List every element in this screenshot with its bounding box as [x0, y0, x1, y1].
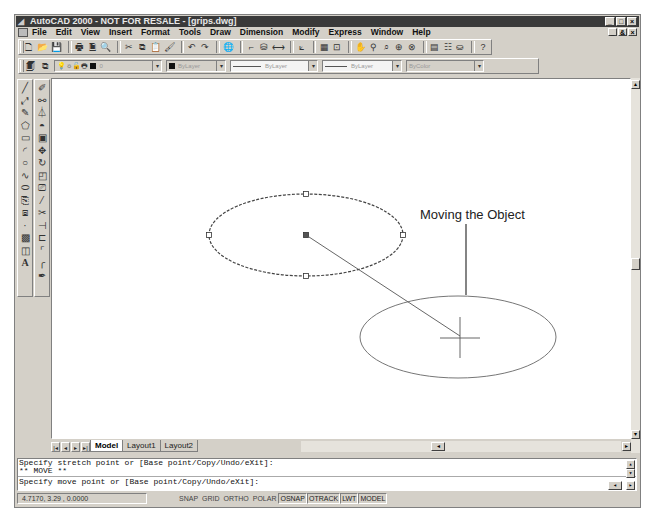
scroll-up-button[interactable]: ▴ [631, 80, 640, 89]
tab-layout1[interactable]: Layout1 [122, 440, 160, 452]
trim-icon[interactable]: ✂ [35, 207, 49, 220]
model-toggle[interactable]: MODEL [358, 493, 387, 504]
toolbar-grip[interactable] [20, 60, 24, 72]
document-icon[interactable] [18, 28, 28, 37]
pan-icon[interactable]: ✋ [355, 41, 366, 53]
otrack-toggle[interactable]: OTRACK [307, 493, 340, 504]
line-icon[interactable]: ╱ [18, 82, 32, 95]
snap-from-icon[interactable]: ⌐ [246, 41, 256, 53]
menu-express[interactable]: Express [329, 27, 362, 38]
close-button[interactable]: × [627, 17, 637, 26]
command-scroll-down[interactable]: ▾ [626, 469, 635, 478]
point-icon[interactable]: · [18, 220, 32, 233]
tab-model[interactable]: Model [90, 440, 123, 452]
color-dropdown[interactable]: ByLayer ▾ [166, 60, 226, 72]
menu-modify[interactable]: Modify [292, 27, 319, 38]
break-icon[interactable]: ⊏ [35, 232, 49, 245]
make-block-icon[interactable]: ⧈ [18, 207, 32, 220]
extend-icon[interactable]: ⊣ [35, 220, 49, 233]
region-icon[interactable]: ◫ [18, 245, 32, 258]
plotstyle-dropdown[interactable]: ByColor ▾ [406, 60, 484, 72]
lineweight-dropdown[interactable]: ByLayer ▾ [322, 60, 402, 72]
menu-draw[interactable]: Draw [210, 27, 231, 38]
properties-icon[interactable]: ▤ [430, 41, 440, 53]
copy-object-icon[interactable]: ⚯ [35, 95, 49, 108]
polar-toggle[interactable]: POLAR [251, 493, 279, 504]
help-icon[interactable]: ? [478, 41, 488, 53]
vertical-scroll-thumb[interactable] [631, 258, 640, 270]
scale-icon[interactable]: ◰ [35, 170, 49, 183]
minimize-button[interactable]: _ [605, 17, 615, 26]
menu-window[interactable]: Window [371, 27, 404, 38]
layer-dropdown[interactable]: 💡☼🔓🖶 0 ▾ [54, 60, 162, 72]
stretch-icon[interactable]: ⎚ [35, 182, 49, 195]
lwt-toggle[interactable]: LWT [340, 493, 358, 504]
offset-icon[interactable]: ◓ [35, 120, 49, 133]
copy-icon[interactable]: ⧉ [137, 41, 147, 53]
next-tab-button[interactable]: ▸ [71, 442, 80, 452]
save-icon[interactable]: 💾 [51, 41, 62, 53]
paste-icon[interactable]: 📋 [150, 41, 161, 53]
lengthen-icon[interactable]: ⁄ [35, 195, 49, 208]
zoom-realtime-icon[interactable]: ⚲ [369, 41, 379, 53]
osnap-toggle[interactable]: OSNAP [278, 493, 307, 504]
zoom-window-icon[interactable]: ⌕ [382, 41, 392, 53]
zoom-extents-icon[interactable]: ⊗ [407, 41, 417, 53]
point-filters-icon[interactable]: ⛁ [259, 41, 269, 53]
menu-format[interactable]: Format [141, 27, 170, 38]
coordinate-display[interactable]: 4.7170, 3.29 , 0.0000 [17, 493, 147, 504]
array-icon[interactable]: ▣ [35, 132, 49, 145]
ucs-icon[interactable]: ⟀ [297, 41, 307, 53]
explode-icon[interactable]: ✒ [35, 270, 49, 283]
undo-icon[interactable]: ↶ [187, 41, 197, 53]
polyline-icon[interactable]: ✎ [18, 107, 32, 120]
layers-icon[interactable]: ⧉ [39, 60, 51, 72]
redo-icon[interactable]: ↷ [200, 41, 210, 53]
spline-icon[interactable]: ∿ [18, 170, 32, 183]
horizontal-scroll-thumb[interactable]: ◂ [431, 442, 445, 451]
construction-line-icon[interactable]: ⤢ [18, 95, 32, 108]
prev-tab-button[interactable]: ◂ [61, 442, 70, 452]
chamfer-icon[interactable]: ⌜ [35, 245, 49, 258]
scroll-right-button[interactable]: ▸ [622, 442, 631, 451]
distance-icon[interactable]: ⟷ [272, 41, 284, 53]
circle-icon[interactable]: ○ [18, 157, 32, 170]
print-icon[interactable]: 🖶 [75, 41, 85, 53]
command-prompt[interactable]: Specify move point or [Base point/Copy/U… [18, 478, 636, 486]
maximize-button[interactable]: □ [616, 17, 626, 26]
mtext-icon[interactable]: A [18, 257, 32, 270]
polygon-icon[interactable]: ⬠ [18, 120, 32, 133]
match-properties-icon[interactable]: 🖌 [164, 41, 175, 53]
horizontal-scrollbar[interactable]: ◂ ▸ [301, 441, 621, 452]
doc-restore-button[interactable]: & [618, 28, 627, 36]
dbconnect-icon[interactable]: ⛀ [456, 41, 466, 53]
toolbar-grip[interactable] [20, 41, 24, 53]
menu-tools[interactable]: Tools [179, 27, 201, 38]
tab-layout2[interactable]: Layout2 [160, 440, 198, 452]
command-window[interactable]: Specify stretch point or [Base point/Cop… [17, 458, 637, 491]
print-preview-icon[interactable]: 🗎 [87, 41, 97, 53]
rotate-icon[interactable]: ↻ [35, 157, 49, 170]
hatch-icon[interactable]: ▩ [18, 232, 32, 245]
make-object-layer-current-icon[interactable]: 🗐 [24, 60, 36, 72]
scroll-down-button[interactable]: ▾ [631, 430, 640, 439]
menu-edit[interactable]: Edit [56, 27, 72, 38]
move-icon[interactable]: ✥ [35, 145, 49, 158]
design-center-icon[interactable]: ☷ [443, 41, 453, 53]
grid-toggle[interactable]: GRID [200, 493, 222, 504]
menu-dimension[interactable]: Dimension [240, 27, 283, 38]
menu-view[interactable]: View [81, 27, 100, 38]
last-tab-button[interactable]: ▸| [81, 442, 90, 452]
open-icon[interactable]: 📂 [37, 41, 48, 53]
drawing-canvas[interactable]: Moving the Object [51, 78, 631, 439]
erase-icon[interactable]: ✐ [35, 82, 49, 95]
doc-minimize-button[interactable]: _ [608, 28, 617, 36]
command-hscroll-right[interactable]: ▸ [626, 481, 635, 490]
arc-icon[interactable]: ◜ [18, 145, 32, 158]
new-icon[interactable]: 🗋 [24, 41, 34, 53]
aerial-view-icon[interactable]: ▦ [319, 41, 329, 53]
vertical-scrollbar[interactable]: ▴ ▾ [631, 78, 640, 453]
ortho-toggle[interactable]: ORTHO [222, 493, 251, 504]
rectangle-icon[interactable]: ▭ [18, 132, 32, 145]
command-scroll-up[interactable]: ▴ [626, 460, 635, 469]
